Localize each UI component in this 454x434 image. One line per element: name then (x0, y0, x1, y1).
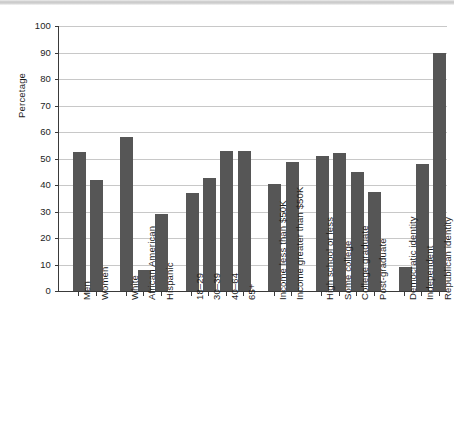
gridline (59, 185, 447, 186)
y-axis-tick (55, 79, 59, 80)
bar (220, 151, 233, 291)
x-axis-tick-label: 65+ (247, 283, 257, 300)
gridline (59, 212, 447, 213)
y-axis-tick (55, 53, 59, 54)
y-axis-tick-label: 0 (46, 286, 51, 296)
y-axis-tick-label: 40 (40, 180, 51, 190)
x-axis-tick-label: Hispanic (165, 262, 175, 300)
y-axis-tick-label: 50 (40, 154, 51, 164)
y-axis-tick-label: 70 (40, 101, 51, 111)
x-axis-tick-label: High school or less (325, 217, 335, 300)
gridline (59, 26, 447, 27)
y-axis-tick (55, 132, 59, 133)
x-axis-tick-label: Income greater than $50K (295, 187, 305, 300)
x-axis-tick-label: African American (147, 226, 157, 300)
y-axis-tick-label: 20 (40, 233, 51, 243)
x-axis-tick-label: 40–64 (230, 273, 240, 300)
x-axis-tick-label: Income less than $50K (278, 200, 288, 300)
plot-area (58, 26, 447, 292)
x-axis-tick-label: Men (82, 281, 92, 300)
gridline (59, 53, 447, 54)
x-axis-tick-label: 18–29 (195, 273, 205, 300)
x-axis-tick-label: Women (100, 267, 110, 300)
x-axis-tick-label: Independent (425, 246, 435, 300)
gridline (59, 238, 447, 239)
x-axis-tick-label: Post-graduate (378, 238, 388, 300)
y-axis-tick-label: 80 (40, 74, 51, 84)
y-axis-tick (55, 106, 59, 107)
y-axis-tick-label: 10 (40, 260, 51, 270)
y-axis-tick (55, 238, 59, 239)
bar (73, 152, 86, 291)
y-axis-tick-label: 60 (40, 127, 51, 137)
x-axis-tick-label: Some college (343, 241, 353, 300)
y-axis-tick-label: 30 (40, 207, 51, 217)
bar-chart-figure: Percetage 0102030405060708090100 MenWome… (0, 0, 454, 434)
y-axis-tick (55, 26, 59, 27)
y-axis-tick-label: 90 (40, 48, 51, 58)
gridline (59, 265, 447, 266)
y-axis-label: Percetage (16, 104, 27, 118)
x-axis-tick-labels: MenWomenWhiteAfrican AmericanHispanic18–… (58, 292, 446, 434)
gridline (59, 159, 447, 160)
x-axis-tick-label: Republican identity (443, 217, 453, 300)
y-axis-tick (55, 185, 59, 186)
scan-artifact-band (0, 0, 454, 5)
y-axis-tick (55, 265, 59, 266)
bar (120, 137, 133, 291)
x-axis-tick-label: Democratic identity (408, 216, 418, 300)
y-axis-tick-label: 100 (35, 21, 51, 31)
bar (238, 151, 251, 291)
gridline (59, 106, 447, 107)
gridline (59, 79, 447, 80)
x-axis-tick-label: College graduate (360, 225, 370, 300)
y-axis-tick (55, 212, 59, 213)
gridline (59, 132, 447, 133)
x-axis-tick-label: White (130, 275, 140, 300)
y-axis-tick (55, 159, 59, 160)
x-axis-tick-label: 30–39 (212, 273, 222, 300)
